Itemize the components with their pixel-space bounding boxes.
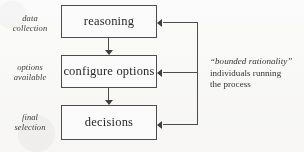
feedback-line-to-decisions [163, 124, 198, 125]
stage-label-final-selection: final selection [4, 112, 56, 132]
annotation-line-3: the process [210, 79, 302, 91]
stage-label-line1: data [22, 13, 38, 23]
stage-label-line1: options [17, 62, 43, 72]
process-box-reasoning: reasoning [61, 5, 157, 38]
process-box-label: reasoning [84, 14, 134, 29]
arrowhead-down-icon [105, 50, 113, 55]
stage-label-line2: available [4, 72, 56, 82]
feedback-line-to-reasoning [163, 22, 198, 23]
feedback-line-to-configure [163, 72, 198, 73]
annotation-bounded-rationality: “bounded rationality” individuals runnin… [210, 56, 302, 91]
stage-label-line2: collection [4, 23, 56, 33]
annotation-quoted-term: “bounded rationality” [210, 56, 302, 68]
process-box-label: decisions [85, 115, 133, 130]
stage-label-line1: final [22, 112, 38, 122]
arrowhead-down-icon [105, 100, 113, 105]
flowchart-diagram: data collection options available final … [0, 0, 304, 152]
process-box-decisions: decisions [61, 105, 157, 140]
arrowhead-left-icon [157, 69, 162, 77]
process-box-label: configure options [63, 64, 154, 79]
feedback-bus-line [197, 22, 198, 125]
arrowhead-left-icon [157, 19, 162, 27]
arrowhead-left-icon [157, 121, 162, 129]
annotation-line-2: individuals running [210, 68, 302, 80]
stage-label-options-available: options available [4, 62, 56, 82]
stage-label-data-collection: data collection [4, 13, 56, 33]
stage-label-line2: selection [4, 122, 56, 132]
process-box-configure-options: configure options [61, 55, 157, 88]
